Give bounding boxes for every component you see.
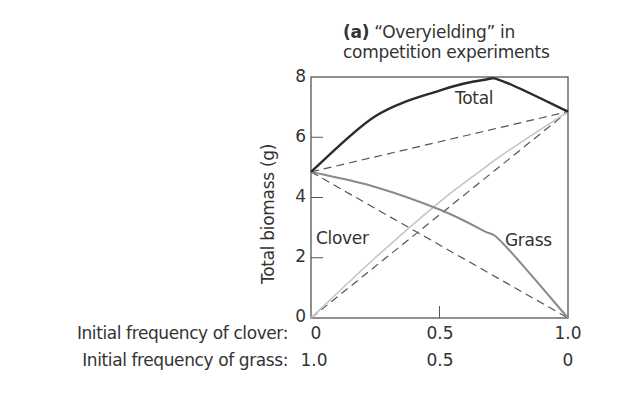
grass-tick-0: 0 xyxy=(563,350,574,370)
grass-frequency-label: Initial frequency of grass: xyxy=(82,350,288,370)
y-tick-6: 6 xyxy=(290,126,306,146)
y-tick-2: 2 xyxy=(290,246,306,266)
grass-curve-label: Grass xyxy=(505,230,552,250)
y-tick-8: 8 xyxy=(290,66,306,86)
clover-tick-0: 0 xyxy=(311,323,322,343)
total-curve-label: Total xyxy=(455,88,493,108)
y-tick-4: 4 xyxy=(290,186,306,206)
total-line xyxy=(311,78,568,172)
clover-curve-label: Clover xyxy=(316,228,369,248)
clover-frequency-label: Initial frequency of clover: xyxy=(77,323,288,343)
clover-tick-05: 0.5 xyxy=(426,323,453,343)
y-axis-label: Total biomass (g) xyxy=(258,144,278,284)
clover-tick-1: 1.0 xyxy=(554,323,581,343)
grass-tick-05: 0.5 xyxy=(426,350,453,370)
expected-clover-line xyxy=(311,112,568,318)
expected-total-line xyxy=(311,112,568,172)
y-tick-0: 0 xyxy=(290,306,306,326)
plot-lines xyxy=(311,78,568,318)
grass-tick-1: 1.0 xyxy=(300,350,327,370)
